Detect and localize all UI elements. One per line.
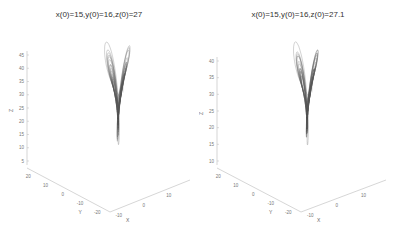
trajectory-line: [294, 42, 319, 145]
x-axis-line: [110, 180, 190, 212]
y-axis-label: Y: [78, 209, 82, 215]
axes: 45403530252015105Z20100-10-20Y-10010X: [8, 51, 190, 223]
lorenz-3d-plot: 40353025201510Z20100-10-20Y-10010X: [199, 0, 397, 229]
z-tick-label: 15: [19, 132, 25, 137]
z-axis-label: Z: [199, 112, 204, 115]
x-tick-label: 10: [361, 193, 367, 198]
y-tick-label: -20: [285, 210, 292, 215]
z-tick-label: 5: [21, 159, 24, 164]
z-tick-label: 30: [209, 92, 215, 97]
plot-panel-left: x(0)=15,y(0)=16,z(0)=27 4540353025201510…: [0, 0, 198, 229]
y-tick-label: 20: [216, 174, 222, 179]
z-tick-label: 35: [209, 75, 215, 80]
z-tick-label: 25: [19, 106, 25, 111]
y-tick-label: -10: [267, 201, 274, 206]
y-tick-label: -10: [77, 201, 84, 206]
x-tick-label: 10: [166, 193, 172, 198]
z-tick-label: 35: [19, 79, 25, 84]
z-tick-label: 15: [209, 142, 215, 147]
y-tick-label: -20: [94, 210, 101, 215]
x-axis-label: X: [317, 217, 321, 223]
y-tick-label: 10: [43, 183, 49, 188]
lorenz-3d-plot: 45403530252015105Z20100-10-20Y-10010X: [0, 0, 198, 229]
y-tick-label: 0: [252, 192, 255, 197]
z-tick-label: 20: [209, 125, 215, 130]
x-axis-label: X: [126, 217, 130, 223]
y-tick-label: 10: [233, 183, 239, 188]
axes: 40353025201510Z20100-10-20Y-10010X: [199, 57, 386, 223]
x-tick-label: 0: [142, 203, 145, 208]
z-tick-label: 40: [209, 59, 215, 64]
z-axis-label: Z: [8, 109, 14, 112]
y-tick-label: 0: [62, 192, 65, 197]
x-axis-line: [301, 180, 386, 212]
z-tick-label: 20: [19, 119, 25, 124]
trajectory-line: [105, 42, 130, 145]
z-tick-label: 25: [209, 109, 215, 114]
plot-panel-right: x(0)=15,y(0)=16,z(0)=27.1 40353025201510…: [199, 0, 397, 229]
z-tick-label: 45: [19, 53, 25, 58]
x-tick-label: -10: [115, 213, 122, 218]
y-tick-label: 20: [26, 174, 32, 179]
x-tick-label: 0: [336, 203, 339, 208]
x-tick-label: -10: [307, 213, 314, 218]
y-axis-line: [217, 168, 301, 212]
z-tick-label: 30: [19, 92, 25, 97]
z-tick-label: 40: [19, 66, 25, 71]
z-tick-label: 10: [209, 159, 215, 164]
y-axis-label: Y: [269, 209, 273, 215]
z-tick-label: 10: [19, 145, 25, 150]
y-axis-line: [27, 168, 110, 212]
